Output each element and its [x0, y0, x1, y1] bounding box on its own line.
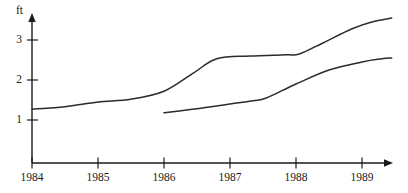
chart-canvas — [0, 0, 408, 193]
y-tick-label-2: 2 — [6, 74, 22, 86]
x-tick-label-1989: 1989 — [351, 172, 374, 184]
x-axis-arrow-icon — [384, 159, 393, 166]
y-axis-unit-label: ft — [16, 5, 23, 17]
x-tick-label-1985: 1985 — [87, 172, 110, 184]
x-tick-label-1987: 1987 — [219, 172, 242, 184]
series-line-lower — [164, 58, 392, 113]
x-tick-label-1988: 1988 — [285, 172, 308, 184]
y-tick-label-1: 1 — [6, 114, 22, 126]
x-tick-label-1986: 1986 — [153, 172, 176, 184]
y-axis-arrow-icon — [28, 13, 35, 22]
series-line-upper — [32, 18, 392, 109]
y-tick-label-3: 3 — [6, 34, 22, 46]
x-tick-label-1984: 1984 — [21, 172, 44, 184]
line-chart: ft 3 2 1 1984 1985 1986 1987 1988 1989 — [0, 0, 408, 193]
